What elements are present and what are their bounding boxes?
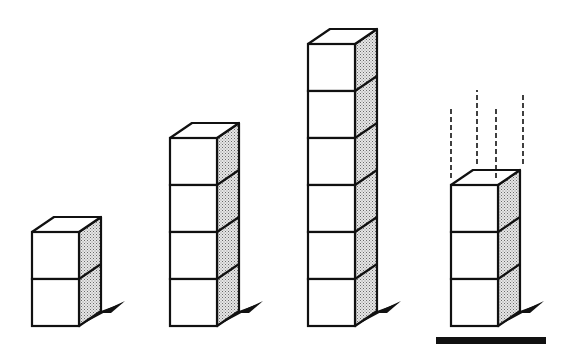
cube-stacks-canvas	[0, 0, 565, 360]
cube-front-face	[308, 138, 355, 185]
cast-shadow	[375, 301, 401, 313]
cube-front-face	[451, 232, 498, 279]
stack-1	[32, 217, 125, 326]
stack-2	[170, 123, 263, 326]
cube-front-face	[451, 185, 498, 232]
cube-front-face	[170, 232, 217, 279]
stack-3	[308, 29, 401, 326]
base-bar	[436, 337, 546, 344]
cube-front-face	[170, 138, 217, 185]
stacks-layer	[32, 29, 546, 344]
cube-front-face	[308, 44, 355, 91]
cube-front-face	[308, 91, 355, 138]
stack-4	[436, 90, 546, 344]
cube-front-face	[451, 279, 498, 326]
side-face	[498, 170, 520, 326]
cube-front-face	[170, 279, 217, 326]
cube-front-face	[170, 185, 217, 232]
cube-front-face	[308, 279, 355, 326]
cube-stacks-figure	[0, 0, 565, 360]
cast-shadow	[518, 301, 544, 313]
cube-front-face	[308, 185, 355, 232]
cast-shadow	[237, 301, 263, 313]
cast-shadow	[99, 301, 125, 313]
cube-front-face	[32, 279, 79, 326]
cube-front-face	[32, 232, 79, 279]
cube-front-face	[308, 232, 355, 279]
